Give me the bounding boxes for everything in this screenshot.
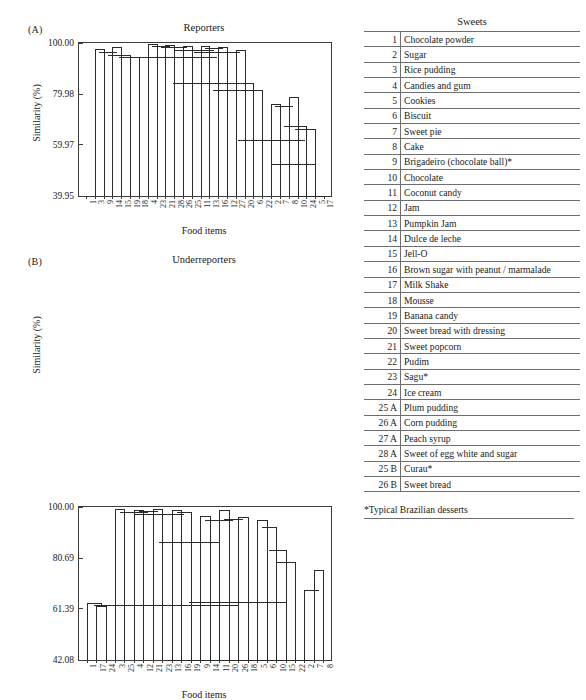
dendrogram-link xyxy=(99,52,117,53)
x-axis-tick-label: 11 xyxy=(223,664,231,672)
x-axis-tick xyxy=(280,196,281,199)
dendrogram-link xyxy=(166,660,312,661)
dendrogram-link xyxy=(286,550,287,660)
dendrogram-link xyxy=(271,104,272,196)
dendrogram-link xyxy=(148,44,157,45)
dendrogram-link xyxy=(315,164,316,196)
x-axis-tick-label: 1 xyxy=(90,664,98,668)
dendrogram-link xyxy=(96,606,105,607)
x-axis-tick xyxy=(209,196,210,199)
dendrogram-link xyxy=(192,46,193,196)
x-axis-tick xyxy=(227,196,228,199)
x-axis-tick xyxy=(96,660,97,663)
x-axis-tick-label: 8 xyxy=(292,200,300,204)
x-axis-tick-label: 7 xyxy=(317,664,325,668)
y-axis-tick-label: 59.97 xyxy=(53,140,79,150)
sweet-name: Sweet bread xyxy=(401,476,581,491)
x-axis-tick xyxy=(153,660,154,663)
sweet-name: Plum pudding xyxy=(401,400,581,415)
dendrogram-link xyxy=(95,49,104,50)
table-row: 25 BCurau* xyxy=(364,461,580,476)
dendrogram-link xyxy=(271,164,315,165)
panel-b-title: Underreporters xyxy=(0,254,352,265)
x-axis-tick xyxy=(121,196,122,199)
x-axis-tick xyxy=(148,196,149,199)
sweet-code: 2 xyxy=(364,47,401,62)
x-axis-tick-label: 6 xyxy=(270,664,278,668)
dendrogram-link xyxy=(289,97,290,196)
sweet-code: 8 xyxy=(364,139,401,154)
table-row: 23Sagu* xyxy=(364,369,580,384)
dendrogram-link xyxy=(218,47,219,196)
sweet-name: Cookies xyxy=(401,93,581,108)
sweet-name: Sugar xyxy=(401,47,581,62)
sweet-code: 11 xyxy=(364,185,401,200)
panel-a-plot-area: 39.9559.9779.98100.001391415191842321282… xyxy=(78,42,332,197)
panel-b-ylabel: Similarity (%) xyxy=(31,316,42,374)
table-row: 5Cookies xyxy=(364,93,580,108)
dendrogram-link xyxy=(304,590,305,660)
dendrogram-link xyxy=(95,49,96,196)
dendrogram-link xyxy=(314,570,315,660)
sweet-name: Rice pudding xyxy=(401,62,581,77)
table-row: 9Brigadeiro (chocolate ball)* xyxy=(364,154,580,169)
dendrogram-link xyxy=(172,510,173,660)
x-axis-tick-label: 5 xyxy=(261,664,269,668)
dendrogram-link xyxy=(121,47,122,196)
dendrogram-link xyxy=(323,570,324,660)
dendrogram-link xyxy=(189,602,286,603)
y-axis-tick-label: 80.69 xyxy=(53,553,79,563)
dendrogram-link xyxy=(94,605,238,606)
dendrogram-link xyxy=(106,606,107,660)
table-row: 19Banana candy xyxy=(364,308,580,323)
table-row: 1Chocolate powder xyxy=(364,32,580,47)
sweet-code: 23 xyxy=(364,369,401,384)
dendrogram-link xyxy=(257,520,266,521)
x-axis-tick xyxy=(253,196,254,199)
x-axis-tick xyxy=(314,660,315,663)
sweet-name: Jell-O xyxy=(401,246,581,261)
dendrogram-link xyxy=(174,45,175,196)
y-axis-tick-label: 100.00 xyxy=(48,502,79,512)
dendrogram-link xyxy=(130,55,131,196)
x-axis-tick-label: 26 xyxy=(242,664,250,672)
dendrogram-link xyxy=(181,510,182,660)
y-axis-tick-label: 79.98 xyxy=(53,89,79,99)
x-axis-tick-label: 22 xyxy=(266,200,274,208)
dendrogram-link xyxy=(236,50,237,196)
sweet-code: 19 xyxy=(364,308,401,323)
sweet-code: 18 xyxy=(364,292,401,307)
sweets-legend: Sweets 1Chocolate powder2Sugar3Rice pudd… xyxy=(358,0,586,472)
sweet-code: 22 xyxy=(364,354,401,369)
x-axis-tick xyxy=(183,196,184,199)
x-axis-tick-label: 24 xyxy=(109,664,117,672)
x-axis-tick-label: 17 xyxy=(327,200,335,208)
dendrogram-link xyxy=(134,510,135,660)
panel-b-plot-area: 42.0861.3980.69100.001172432541221231316… xyxy=(78,506,332,661)
dendrogram-link xyxy=(267,520,268,660)
x-axis-tick xyxy=(134,660,135,663)
sweet-code: 10 xyxy=(364,170,401,185)
x-axis-tick-label: 6 xyxy=(257,200,265,204)
x-axis-tick xyxy=(165,196,166,199)
table-row: 8Cake xyxy=(364,139,580,154)
x-axis-tick xyxy=(86,196,87,199)
dendrogram-link xyxy=(276,527,277,660)
x-axis-tick-label: 4 xyxy=(137,664,145,668)
sweet-name: Banana candy xyxy=(401,308,581,323)
x-axis-tick-label: 25 xyxy=(128,664,136,672)
x-axis-tick-label: 18 xyxy=(251,664,259,672)
sweet-name: Coconut candy xyxy=(401,185,581,200)
sweet-code: 9 xyxy=(364,154,401,169)
dendrogram-link xyxy=(115,509,116,660)
sweet-name: Ice cream xyxy=(401,384,581,399)
table-row: 21Sweet popcorn xyxy=(364,338,580,353)
sweet-name: Peach syrup xyxy=(401,430,581,445)
legend-title: Sweets xyxy=(358,16,586,27)
dendrogram-link xyxy=(262,90,263,196)
table-row: 26 BSweet bread xyxy=(364,476,580,491)
table-row: 14Dulce de leche xyxy=(364,231,580,246)
table-row: 16Brown sugar with peanut / marmalade xyxy=(364,262,580,277)
dendrogram-link xyxy=(134,514,184,515)
dendrogram-link xyxy=(262,527,276,528)
